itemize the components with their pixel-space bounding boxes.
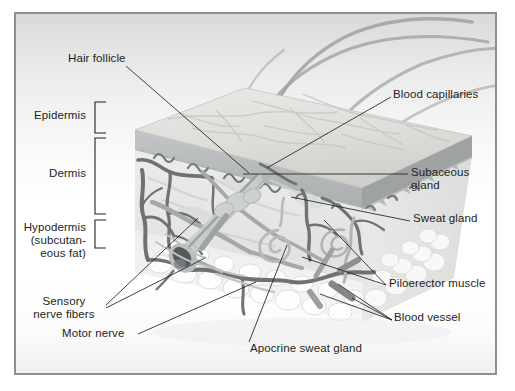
label-hair-follicle: Hair follicle — [68, 52, 126, 65]
label-hypodermis-line2: (subcutan- — [0, 234, 86, 247]
label-apocrine-sweat-gland: Apocrine sweat gland — [250, 342, 362, 355]
label-sweat-gland: Sweat gland — [413, 212, 477, 225]
label-subaceous-line1: Subaceous — [411, 166, 469, 179]
label-hypodermis-line1: Hypodermis — [0, 221, 86, 234]
label-sensory-line2: nerve fibers — [18, 308, 110, 321]
skin-anatomy-figure: Hair follicle Epidermis Dermis Hypodermi… — [0, 0, 515, 391]
bracket-epidermis — [95, 102, 106, 133]
label-piloerector-muscle: Piloerector muscle — [389, 277, 485, 290]
label-hypodermis-line3: eous fat) — [0, 247, 86, 260]
label-motor-nerve: Motor nerve — [62, 327, 124, 340]
label-subaceous-line2: gland — [411, 179, 440, 192]
label-blood-capillaries: Blood capillaries — [393, 88, 478, 101]
bracket-hypodermis — [95, 220, 106, 248]
label-epidermis: Epidermis — [0, 109, 86, 122]
bracket-dermis — [95, 138, 106, 214]
label-dermis: Dermis — [0, 167, 86, 180]
layer-brackets — [95, 102, 106, 248]
label-sensory-line1: Sensory — [25, 295, 103, 308]
label-blood-vessel: Blood vessel — [394, 311, 460, 324]
